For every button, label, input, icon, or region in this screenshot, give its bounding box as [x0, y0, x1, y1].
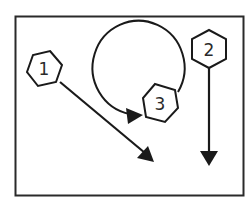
loop-arrowhead-icon	[126, 108, 143, 124]
node-3-label: 3	[155, 94, 166, 114]
arrowhead-node-2-icon	[200, 151, 218, 166]
node-2: 2	[192, 30, 226, 68]
diagram-canvas: 1 2 3	[0, 0, 252, 206]
node-3: 3	[143, 84, 178, 122]
node-1-label: 1	[39, 59, 50, 79]
node-2-label: 2	[204, 40, 215, 60]
node-1: 1	[27, 51, 62, 86]
